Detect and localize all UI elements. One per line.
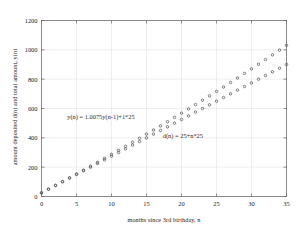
data-point bbox=[236, 89, 239, 92]
data-point bbox=[222, 96, 225, 99]
data-point bbox=[124, 148, 127, 151]
x-axis-label: months since 3rd birthday, n bbox=[41, 216, 287, 223]
y-axis-label: amount deposited d(n) and total amount, … bbox=[11, 18, 18, 196]
data-point bbox=[194, 111, 197, 114]
data-point bbox=[138, 137, 141, 140]
x-tick-label: 0 bbox=[40, 200, 43, 207]
series-2 bbox=[40, 63, 288, 194]
data-point bbox=[131, 141, 134, 144]
data-point bbox=[229, 81, 232, 84]
data-point bbox=[236, 77, 239, 80]
tick-labels: 05101520253035020040060080010001200 bbox=[25, 17, 290, 207]
data-point bbox=[187, 115, 190, 118]
annotation-1: y(n) = 1.0075y(n-1)+1*25 bbox=[67, 113, 134, 121]
data-point bbox=[222, 86, 225, 89]
data-point bbox=[278, 67, 281, 70]
x-tick-label: 20 bbox=[178, 200, 184, 207]
data-point bbox=[152, 133, 155, 136]
data-point bbox=[159, 125, 162, 128]
data-point bbox=[61, 181, 64, 184]
data-point bbox=[54, 184, 57, 187]
data-point bbox=[47, 188, 50, 191]
x-tick-label: 5 bbox=[75, 200, 78, 207]
plot-area: 05101520253035020040060080010001200 y(n)… bbox=[0, 0, 304, 236]
y-tick-label: 200 bbox=[28, 164, 38, 171]
y-tick-label: 1000 bbox=[25, 46, 38, 53]
x-tick-label: 15 bbox=[143, 200, 149, 207]
data-point bbox=[257, 63, 260, 66]
y-tick-label: 600 bbox=[28, 105, 38, 112]
x-tick-label: 10 bbox=[108, 200, 114, 207]
chart-annotations: y(n) = 1.0075y(n-1)+1*25d(n) = 25+n*25 bbox=[67, 113, 203, 140]
data-point bbox=[264, 74, 267, 77]
scatter-chart-figure: amount deposited d(n) and total amount, … bbox=[0, 0, 304, 236]
annotation-2: d(n) = 25+n*25 bbox=[163, 132, 203, 140]
data-point bbox=[229, 93, 232, 96]
data-point bbox=[271, 71, 274, 74]
x-tick-label: 25 bbox=[213, 200, 219, 207]
data-point bbox=[208, 95, 211, 98]
data-point bbox=[166, 126, 169, 129]
data-point bbox=[117, 151, 120, 154]
y-tick-label: 400 bbox=[28, 134, 38, 141]
data-point bbox=[68, 177, 71, 180]
data-point bbox=[187, 108, 190, 111]
y-tick-label: 800 bbox=[28, 76, 38, 83]
gridlines bbox=[42, 21, 287, 197]
data-point bbox=[264, 58, 267, 61]
y-tick-label: 0 bbox=[34, 193, 37, 200]
data-point bbox=[243, 85, 246, 88]
x-tick-label: 30 bbox=[248, 200, 254, 207]
data-point bbox=[201, 99, 204, 102]
data-point bbox=[138, 140, 141, 143]
data-point bbox=[131, 144, 134, 147]
data-point bbox=[159, 129, 162, 132]
x-tick-label: 35 bbox=[283, 200, 289, 207]
data-point bbox=[208, 104, 211, 107]
y-tick-label: 1200 bbox=[25, 17, 38, 24]
data-point bbox=[243, 72, 246, 75]
data-point bbox=[194, 103, 197, 106]
data-point bbox=[82, 170, 85, 173]
data-point bbox=[152, 129, 155, 132]
data-point bbox=[271, 54, 274, 57]
data-point bbox=[173, 122, 176, 125]
data-point bbox=[166, 120, 169, 123]
data-point bbox=[173, 116, 176, 119]
